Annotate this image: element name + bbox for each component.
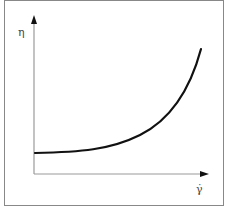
frame-border bbox=[5, 1, 224, 206]
x-axis-arrow-icon bbox=[200, 171, 209, 177]
viscosity-curve bbox=[35, 49, 201, 153]
y-axis-label: η bbox=[18, 26, 25, 39]
y-axis-arrow-icon bbox=[31, 15, 37, 24]
viscosity-shear-rate-chart bbox=[0, 0, 228, 212]
x-axis-label: γ̇ bbox=[196, 183, 203, 196]
